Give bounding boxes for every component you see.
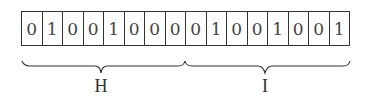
group-label-h: H <box>95 76 108 97</box>
group-braces <box>0 0 371 102</box>
group-label-i: I <box>262 76 268 97</box>
brace-h <box>22 61 185 73</box>
binary-encoding-diagram: 0100100001001001 H I <box>0 0 371 102</box>
brace-i <box>185 61 350 73</box>
